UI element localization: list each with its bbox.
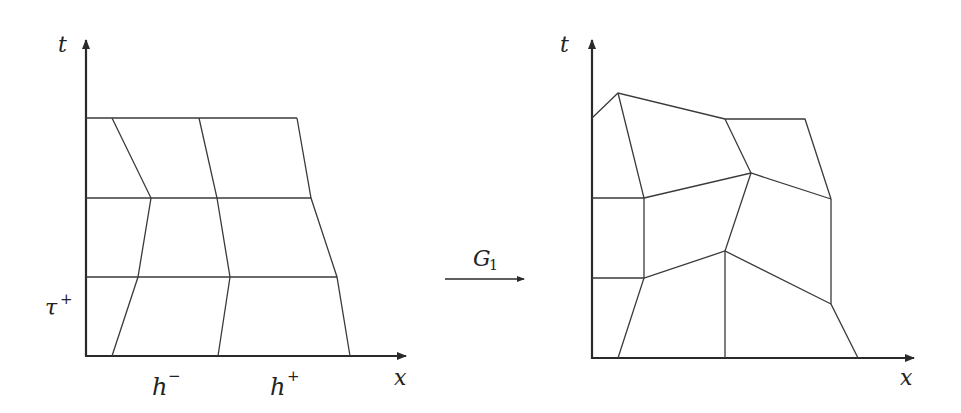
left-x-label: x: [394, 365, 407, 390]
deformed-top-boundary: [592, 93, 831, 199]
left-characteristic: [112, 118, 151, 356]
g1-mapping-arrow: G 1: [445, 246, 524, 279]
right-boundary: [297, 118, 350, 356]
deformed-middle-characteristic: [725, 119, 751, 358]
g1-subscript: 1: [489, 257, 498, 273]
deformed-time-level: [592, 251, 831, 304]
deformed-time-level: [592, 173, 831, 199]
svg-text:+: +: [60, 290, 73, 308]
svg-text:τ: τ: [45, 295, 58, 320]
left-panel: t x τ + h − h +: [45, 32, 407, 401]
svg-text:h: h: [152, 373, 167, 401]
right-panel: t x: [560, 32, 914, 390]
right-x-label: x: [900, 365, 913, 390]
right-mesh: [592, 93, 858, 358]
svg-text:−: −: [168, 367, 181, 385]
h-minus-label: h −: [152, 367, 181, 401]
middle-characteristic: [199, 118, 230, 356]
h-plus-label: h +: [270, 367, 300, 401]
right-t-label: t: [560, 32, 569, 57]
deformed-right-boundary: [831, 199, 858, 358]
svg-text:+: +: [287, 367, 300, 385]
diagram-canvas: t x τ + h − h + G 1 t x: [0, 0, 961, 413]
svg-text:h: h: [270, 373, 285, 401]
tau-plus-label: τ +: [45, 290, 73, 320]
g1-label: G: [473, 246, 491, 271]
left-t-label: t: [58, 32, 67, 57]
deformed-left-characteristic: [618, 93, 644, 358]
left-mesh: [86, 118, 350, 356]
